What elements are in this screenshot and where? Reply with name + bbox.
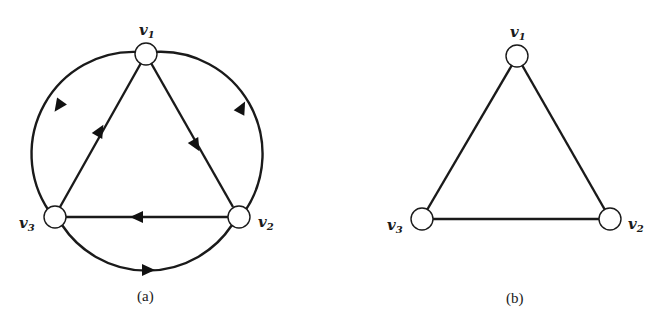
edge-arc-v1-v3 — [32, 52, 138, 211]
label-v1: v1 — [510, 23, 526, 42]
panel-b-undirected-graph: v1 v2 v3 (b) — [387, 23, 644, 307]
edge-arc-v3-v2 — [62, 225, 232, 271]
node-v3 — [44, 206, 66, 228]
node-v2 — [599, 208, 621, 230]
arrow-down-left-icon — [50, 98, 67, 116]
arrow-left-icon — [130, 211, 143, 223]
graph-figure: v1 v2 v3 (a) v1 v2 v3 (b) — [0, 0, 657, 331]
node-v1 — [135, 43, 157, 65]
arrow-right-icon — [142, 264, 155, 276]
label-v1: v1 — [139, 21, 155, 40]
edge-v3-v1 — [427, 65, 512, 210]
edge-arc-v2-v1 — [154, 52, 263, 211]
panel-a-directed-graph: v1 v2 v3 (a) — [19, 21, 274, 305]
label-v3: v3 — [387, 216, 403, 235]
caption-b: (b) — [506, 290, 524, 307]
caption-a: (a) — [137, 288, 154, 305]
label-v2: v2 — [628, 215, 644, 234]
label-v3: v3 — [19, 214, 35, 233]
node-v1 — [506, 45, 528, 67]
node-v2 — [228, 206, 250, 228]
edge-v1-v2 — [151, 63, 233, 207]
node-v3 — [411, 208, 433, 230]
label-v2: v2 — [258, 213, 274, 232]
edge-v1-v2 — [522, 65, 605, 210]
